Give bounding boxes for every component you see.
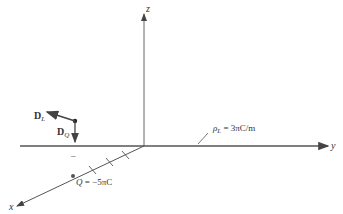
diagram-canvas: z y x ρL = 3πC/m Q = −5πC DL DQ – [0,0,343,214]
minus-mark: – [71,151,76,160]
dl-label: DL [34,111,45,123]
x-tick [122,151,129,159]
x-tick [106,158,113,166]
rho-leader [198,133,208,144]
x-axis-label: x [9,202,13,212]
dl-subscript: L [41,115,45,123]
axes-drawing [0,0,343,214]
line-charge-label: ρL = 3πC/m [213,124,255,135]
point-charge [71,174,75,178]
dq-label: DQ [57,127,69,139]
dl-vector [47,112,75,121]
line-charge-value: = 3πC/m [223,123,255,133]
x-tick [89,166,96,174]
point-charge-label: Q = −5πC [76,178,112,187]
point-charge-value: = −5πC [85,177,112,187]
q-symbol: Q [76,177,83,187]
y-axis-label: y [331,141,335,151]
z-axis-label: z [146,4,150,14]
rho-subscript: L [217,127,221,135]
dq-subscript: Q [64,131,69,139]
